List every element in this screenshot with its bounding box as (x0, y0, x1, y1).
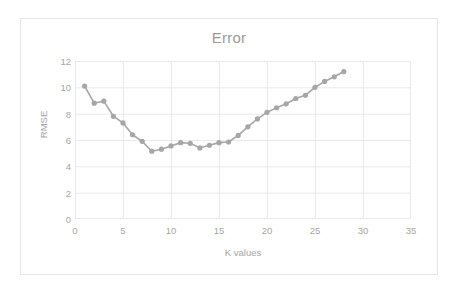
y-tick-label: 6 (66, 135, 71, 146)
x-tick-label: 5 (120, 225, 125, 236)
x-tick-label: 10 (166, 225, 177, 236)
data-point (178, 140, 183, 145)
data-point (207, 143, 212, 148)
data-point (149, 149, 154, 154)
y-tick-label: 8 (66, 108, 71, 119)
x-tick-label: 20 (262, 225, 273, 236)
gridlines (75, 61, 411, 219)
chart-title: Error (21, 29, 437, 46)
chart-container: Error RMSE 024681012 05101520253035 K va… (20, 18, 438, 275)
y-tick-label: 10 (60, 82, 71, 93)
line-chart-svg (75, 61, 411, 219)
data-point (322, 79, 327, 84)
data-point (120, 120, 125, 125)
data-point (332, 74, 337, 79)
x-axis-tick-labels: 05101520253035 (75, 225, 411, 239)
data-point (245, 124, 250, 129)
data-point (284, 101, 289, 106)
plot-area (75, 61, 411, 219)
x-tick-label: 25 (310, 225, 321, 236)
data-point (236, 133, 241, 138)
data-point (168, 143, 173, 148)
data-point (226, 139, 231, 144)
x-axis-title: K values (75, 247, 411, 258)
x-tick-label: 30 (358, 225, 369, 236)
data-point (274, 105, 279, 110)
data-point (188, 141, 193, 146)
data-point (341, 69, 346, 74)
data-point (140, 139, 145, 144)
y-tick-label: 12 (60, 56, 71, 67)
y-axis-tick-labels: 024681012 (51, 61, 71, 219)
data-point (312, 85, 317, 90)
data-point (216, 140, 221, 145)
y-tick-label: 0 (66, 214, 71, 225)
data-point (303, 93, 308, 98)
data-point (293, 96, 298, 101)
data-point (111, 114, 116, 119)
y-tick-label: 2 (66, 187, 71, 198)
data-point (159, 147, 164, 152)
x-tick-label: 35 (406, 225, 417, 236)
data-point (255, 116, 260, 121)
data-point (197, 145, 202, 150)
data-point (130, 132, 135, 137)
series-markers-rmse (82, 69, 346, 154)
data-point (82, 83, 87, 88)
y-axis-title: RMSE (38, 95, 49, 155)
x-tick-label: 15 (214, 225, 225, 236)
x-tick-label: 0 (72, 225, 77, 236)
data-point (101, 99, 106, 104)
data-point (264, 110, 269, 115)
data-point (92, 101, 97, 106)
y-tick-label: 4 (66, 161, 71, 172)
